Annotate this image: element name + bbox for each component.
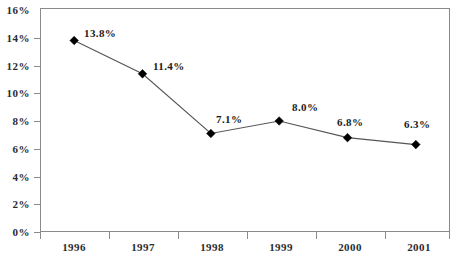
data-label: 8.0%: [292, 101, 318, 113]
y-tick-mark: [34, 38, 40, 39]
data-label: 6.8%: [337, 116, 363, 128]
data-label: 13.8%: [84, 27, 116, 39]
data-label: 11.4%: [153, 60, 185, 72]
data-label: 7.1%: [216, 113, 242, 125]
y-tick-mark: [34, 204, 40, 205]
x-tick-mark: [247, 232, 248, 239]
y-tick-label: 0%: [0, 226, 30, 238]
x-tick-mark: [40, 232, 41, 239]
y-tick-label: 8%: [0, 115, 30, 127]
y-tick-mark: [34, 93, 40, 94]
x-tick-mark: [316, 232, 317, 239]
x-tick-label: 1999: [269, 241, 293, 253]
y-tick-mark: [34, 149, 40, 150]
x-tick-mark: [385, 232, 386, 239]
data-label: 6.3%: [404, 118, 430, 130]
x-tick-label: 2000: [338, 241, 362, 253]
y-tick-label: 4%: [0, 171, 30, 183]
y-tick-label: 12%: [0, 60, 30, 72]
y-tick-label: 16%: [0, 4, 30, 16]
y-axis: 16% 14% 12% 10% 8% 6% 4% 2% 0%: [0, 0, 40, 265]
x-tick-label: 2001: [407, 241, 431, 253]
line-chart: 16% 14% 12% 10% 8% 6% 4% 2% 0% 1996 1997…: [0, 0, 458, 265]
y-tick-label: 14%: [0, 32, 30, 44]
x-tick-label: 1998: [200, 241, 224, 253]
x-tick-label: 1996: [62, 241, 86, 253]
y-tick-label: 6%: [0, 143, 30, 155]
x-tick-label: 1997: [131, 241, 155, 253]
plot-area-border: [40, 8, 450, 232]
x-tick-mark: [178, 232, 179, 239]
x-tick-mark: [109, 232, 110, 239]
x-tick-mark: [449, 232, 450, 239]
y-tick-label: 2%: [0, 198, 30, 210]
y-tick-label: 10%: [0, 87, 30, 99]
y-tick-mark: [34, 66, 40, 67]
y-tick-mark: [34, 177, 40, 178]
y-tick-mark: [34, 121, 40, 122]
